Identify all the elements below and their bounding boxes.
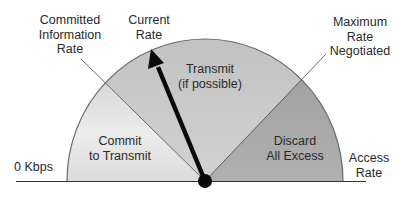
rate-gauge-diagram: Committed Information Rate Current Rate … [0, 0, 409, 197]
zone-label-commit: Commit to Transmit [84, 134, 156, 163]
needle-pivot [198, 174, 212, 188]
zone-label-transmit: Transmit (if possible) [172, 62, 248, 91]
zone-label-discard: Discard All Excess [255, 134, 335, 163]
label-zero-kbps: 0 Kbps [14, 160, 60, 175]
label-current-rate: Current Rate [124, 13, 174, 42]
label-access-rate: Access Rate [344, 151, 394, 180]
label-committed-information-rate: Committed Information Rate [35, 13, 105, 57]
label-maximum-rate-negotiated: Maximum Rate Negotiated [324, 15, 396, 59]
